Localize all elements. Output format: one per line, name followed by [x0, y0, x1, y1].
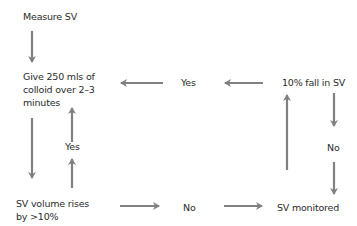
node-give-colloid-line3: minutes — [23, 96, 60, 109]
node-sv-monitored: SV monitored — [277, 201, 339, 214]
node-give-colloid-line1: Give 250 mls of — [23, 70, 95, 83]
node-fall-in-sv: 10% fall in SV — [282, 76, 345, 89]
edge-label-yes-fall: Yes — [181, 76, 196, 89]
node-sv-rises-line1: SV volume rises — [16, 197, 89, 210]
edge-label-no-fall: No — [327, 141, 340, 154]
node-measure-sv: Measure SV — [23, 10, 77, 23]
flowchart-arrows — [0, 0, 357, 226]
node-sv-rises-line2: by >10% — [16, 210, 58, 223]
edge-label-no-rises: No — [183, 201, 196, 214]
edge-label-yes-rises: Yes — [65, 140, 80, 153]
node-give-colloid-line2: colloid over 2–3 — [23, 83, 95, 96]
